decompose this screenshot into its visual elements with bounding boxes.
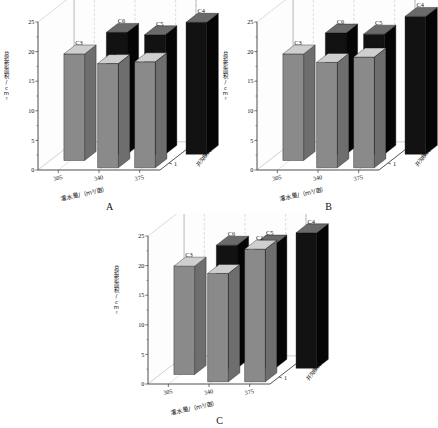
svg-text:375: 375: [244, 387, 255, 396]
bar-label-c2: C2: [109, 49, 116, 56]
svg-text:5: 5: [31, 137, 34, 144]
bar-label-c3: C3: [75, 39, 82, 46]
bar-c2: [208, 264, 240, 381]
svg-text:375: 375: [353, 173, 364, 182]
bar-label-c4: C4: [307, 218, 315, 225]
svg-text:20: 20: [28, 48, 34, 55]
plot-area-c: 051015202530534037512C3C6C5C4C2C1总投影面积/c…: [110, 214, 329, 428]
chart-panel-c: 051015202530534037512C3C6C5C4C2C1总投影面积/c…: [110, 214, 329, 428]
bar-label-c6: C6: [228, 230, 235, 237]
svg-text:5: 5: [250, 137, 253, 144]
bar-c2: [317, 53, 349, 167]
bar-label-c6: C6: [118, 17, 125, 24]
svg-text:1: 1: [284, 374, 287, 381]
svg-text:305: 305: [272, 173, 283, 182]
bar-c3: [283, 45, 315, 161]
svg-text:340: 340: [312, 173, 323, 182]
bar-c1: [135, 53, 167, 168]
svg-text:15: 15: [138, 291, 144, 298]
bar-label-c6: C6: [337, 18, 344, 25]
svg-text:25: 25: [138, 232, 144, 239]
y-axis-label: 总投影面积/cm²: [111, 266, 122, 316]
bar-label-c1: C1: [365, 42, 372, 49]
bar-c4: [405, 7, 437, 154]
svg-text:305: 305: [53, 173, 64, 182]
svg-text:15: 15: [28, 77, 34, 84]
svg-text:20: 20: [247, 48, 253, 55]
y-axis-label: 总投影面积/cm²: [220, 52, 231, 102]
bar-label-c3: C3: [185, 251, 192, 258]
bar-c4: [186, 13, 218, 154]
svg-text:375: 375: [134, 173, 145, 182]
bar-label-c1: C1: [146, 47, 153, 54]
bar-c1: [354, 48, 386, 168]
svg-text:10: 10: [138, 321, 144, 328]
bar-label-c4: C4: [416, 1, 424, 8]
bar-c3: [64, 45, 96, 161]
svg-text:25: 25: [28, 18, 34, 25]
chart-panel-b: 051015202530534037512C3C6C5C4C2C1总投影面积/c…: [219, 0, 438, 214]
plot-area-b: 051015202530534037512C3C6C5C4C2C1总投影面积/c…: [219, 0, 438, 214]
bar-label-c2: C2: [219, 258, 226, 265]
panel-letter-c: C: [110, 415, 329, 426]
svg-text:25: 25: [247, 18, 253, 25]
bar-label-c1: C1: [256, 234, 263, 241]
panel-letter-a: A: [0, 201, 219, 212]
bar-label-c5: C5: [156, 20, 163, 27]
bar-c3: [174, 257, 206, 374]
plot-area-a: 051015202530534037512C3C6C5C4C2C1总投影面积/c…: [0, 0, 219, 214]
svg-text:15: 15: [247, 77, 253, 84]
svg-text:10: 10: [28, 107, 34, 114]
panel-letter-b: B: [219, 201, 438, 212]
svg-text:10: 10: [247, 107, 253, 114]
svg-text:1: 1: [393, 160, 396, 167]
svg-text:5: 5: [141, 351, 144, 358]
svg-text:340: 340: [93, 173, 104, 182]
y-axis-label: 总投影面积/cm²: [1, 52, 12, 102]
svg-text:305: 305: [163, 387, 174, 396]
svg-text:1: 1: [174, 160, 177, 167]
bar-label-c3: C3: [294, 39, 301, 46]
chart-panel-a: 051015202530534037512C3C6C5C4C2C1总投影面积/c…: [0, 0, 219, 214]
bar-label-c4: C4: [197, 7, 205, 14]
svg-text:0: 0: [250, 166, 253, 173]
bar-label-c2: C2: [328, 47, 335, 54]
bar-label-c5: C5: [375, 19, 382, 26]
svg-text:0: 0: [141, 380, 144, 387]
svg-text:20: 20: [138, 262, 144, 269]
bar-label-c5: C5: [266, 229, 273, 236]
svg-text:0: 0: [31, 166, 34, 173]
svg-text:340: 340: [203, 387, 214, 396]
bar-c1: [245, 240, 277, 382]
bar-c2: [98, 55, 130, 168]
bar-c4: [296, 224, 328, 369]
